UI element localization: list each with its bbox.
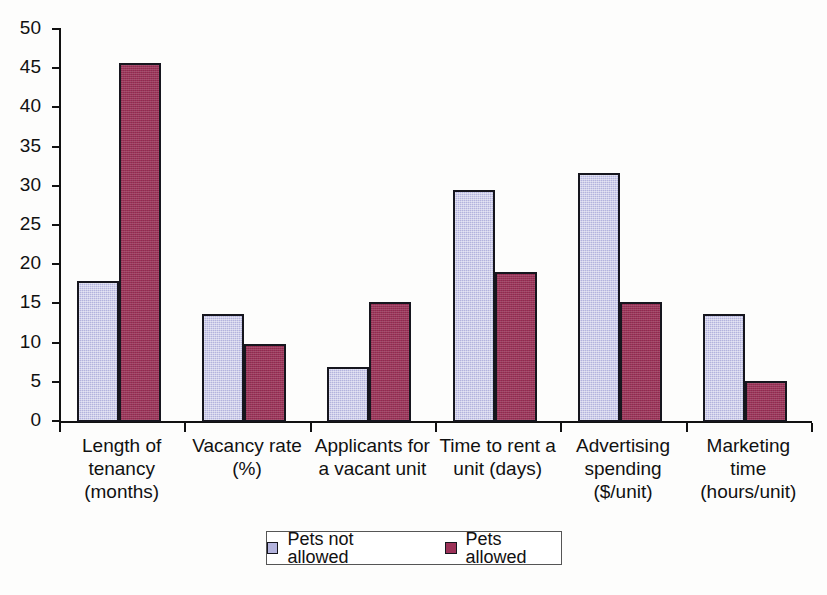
x-axis-tick	[310, 423, 312, 432]
legend-item-pets-not-allowed: Pets not allowed	[267, 530, 411, 566]
bar-pets-not-allowed-1	[202, 314, 244, 422]
bar-pets-not-allowed-4	[578, 173, 620, 422]
y-axis-tick-label: 30	[20, 175, 41, 194]
bar-pets-not-allowed-2	[327, 367, 369, 422]
x-axis-category-label-5: Marketing time (hours/unit)	[680, 434, 817, 503]
x-axis-tick	[184, 423, 186, 432]
x-axis-category-label-2: Applicants for a vacant unit	[304, 434, 441, 480]
y-axis-tick: 35	[52, 146, 59, 148]
y-axis-tick: 25	[52, 224, 59, 226]
bar-pets-allowed-5	[745, 381, 787, 422]
y-axis-tick-label: 0	[30, 410, 41, 429]
bar-pets-allowed-0	[119, 63, 161, 422]
bar-pets-not-allowed-5	[703, 314, 745, 422]
y-axis-tick: 20	[52, 263, 59, 265]
x-axis-tick	[811, 423, 813, 432]
y-axis-tick: 40	[52, 106, 59, 108]
y-axis-tick-label: 40	[20, 96, 41, 115]
y-axis-tick: 50	[52, 28, 59, 30]
y-axis-tick: 15	[52, 302, 59, 304]
x-axis-tick	[59, 423, 61, 432]
bar-pets-not-allowed-3	[453, 190, 495, 422]
y-axis-tick: 30	[52, 185, 59, 187]
y-axis-tick: 45	[52, 67, 59, 69]
bar-pets-allowed-1	[244, 344, 286, 422]
legend-item-pets-allowed: Pets allowed	[445, 530, 561, 566]
y-axis-tick-label: 25	[20, 214, 41, 233]
bar-chart: 05101520253035404550 Length of tenancy (…	[0, 0, 827, 595]
bar-pets-allowed-3	[495, 272, 537, 422]
x-axis-tick	[560, 423, 562, 432]
x-axis-category-label-3: Time to rent a unit (days)	[429, 434, 566, 480]
y-axis-tick-label: 50	[20, 18, 41, 37]
y-axis-tick: 10	[52, 342, 59, 344]
bar-pets-allowed-4	[620, 302, 662, 422]
y-axis-tick-label: 35	[20, 136, 41, 155]
bar-pets-allowed-2	[369, 302, 411, 422]
x-axis-category-label-0: Length of tenancy (months)	[53, 434, 190, 503]
chart-legend: Pets not allowed Pets allowed	[266, 531, 562, 565]
y-axis-tick-label: 20	[20, 253, 41, 272]
x-axis-category-label-1: Vacancy rate (%)	[178, 434, 315, 480]
bar-pets-not-allowed-0	[77, 281, 119, 422]
x-axis-tick	[686, 423, 688, 432]
y-axis-tick: 0	[52, 420, 59, 422]
x-axis-category-label-4: Advertising spending ($/unit)	[554, 434, 691, 503]
y-axis-tick-label: 10	[20, 332, 41, 351]
y-axis-tick-label: 15	[20, 292, 41, 311]
y-axis-tick-label: 5	[30, 371, 41, 390]
legend-swatch-icon-pets-not-allowed	[267, 542, 278, 554]
plot-area: 05101520253035404550	[59, 30, 811, 422]
x-axis-tick	[435, 423, 437, 432]
y-axis-tick: 5	[52, 381, 59, 383]
legend-label-pets-not-allowed: Pets not allowed	[287, 530, 411, 566]
legend-swatch-icon-pets-allowed	[445, 542, 456, 554]
y-axis-tick-label: 45	[20, 57, 41, 76]
legend-label-pets-allowed: Pets allowed	[466, 530, 562, 566]
